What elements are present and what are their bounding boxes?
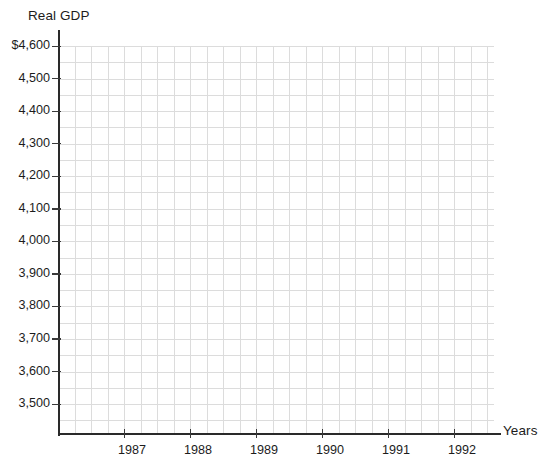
y-tick-mark <box>52 208 61 209</box>
plot-area <box>60 46 494 435</box>
y-tick-mark <box>52 404 61 405</box>
y-tick-label-wrap: $4,600 <box>0 38 50 52</box>
y-tick-label: 4,500 <box>0 71 50 85</box>
gridline-horizontal <box>60 225 494 226</box>
gridline-horizontal <box>60 339 494 340</box>
y-tick-label: 4,000 <box>0 233 50 247</box>
y-tick-label-wrap: 4,200 <box>0 168 50 182</box>
y-tick-mark <box>52 143 61 144</box>
gridline-horizontal <box>60 241 494 242</box>
y-tick-mark <box>52 46 61 47</box>
gridline-horizontal <box>60 127 494 128</box>
gridline-horizontal <box>60 79 494 80</box>
y-tick-label-wrap: 3,500 <box>0 396 50 410</box>
y-tick-label-wrap: 3,900 <box>0 266 50 280</box>
gridline-horizontal <box>60 388 494 389</box>
gridline-horizontal <box>60 176 494 177</box>
gridline-horizontal <box>60 192 494 193</box>
y-tick-label: 4,200 <box>0 168 50 182</box>
x-tick-mark <box>190 429 191 438</box>
y-tick-mark <box>52 371 61 372</box>
x-tick-label: 1992 <box>432 443 492 457</box>
y-tick-mark <box>52 241 61 242</box>
x-tick-label-wrap: 1991 <box>366 443 426 459</box>
gridline-horizontal <box>60 274 494 275</box>
gridline-horizontal <box>60 111 494 112</box>
y-tick-label-wrap: 4,100 <box>0 201 50 215</box>
y-axis-line <box>58 30 60 436</box>
x-axis-title: Years <box>503 423 538 438</box>
y-tick-mark <box>52 176 61 177</box>
y-tick-label: 4,100 <box>0 201 50 215</box>
gridline-horizontal <box>60 355 494 356</box>
gridline-horizontal <box>60 160 494 161</box>
y-tick-mark <box>52 78 61 79</box>
x-tick-label: 1988 <box>168 443 228 457</box>
gridline-horizontal <box>60 290 494 291</box>
x-tick-mark <box>256 429 257 438</box>
x-tick-mark <box>388 429 389 438</box>
gridline-horizontal <box>60 46 494 47</box>
y-tick-mark <box>52 306 61 307</box>
gridline-horizontal <box>60 323 494 324</box>
y-tick-label-wrap: 4,300 <box>0 136 50 150</box>
y-tick-label-wrap: 3,800 <box>0 298 50 312</box>
gridline-horizontal <box>60 62 494 63</box>
x-tick-mark <box>124 429 125 438</box>
y-tick-label: 3,800 <box>0 298 50 312</box>
y-tick-mark <box>52 111 61 112</box>
y-tick-label: 4,300 <box>0 136 50 150</box>
y-tick-label: 3,700 <box>0 331 50 345</box>
y-tick-label-wrap: 3,700 <box>0 331 50 345</box>
gridline-horizontal <box>60 372 494 373</box>
x-tick-label-wrap: 1988 <box>168 443 228 459</box>
gridline-horizontal <box>60 144 494 145</box>
x-tick-label-wrap: 1989 <box>234 443 294 459</box>
gridline-horizontal <box>60 95 494 96</box>
y-tick-label: 4,400 <box>0 103 50 117</box>
x-tick-label: 1990 <box>300 443 360 457</box>
y-tick-label: 3,900 <box>0 266 50 280</box>
y-tick-label-wrap: 4,500 <box>0 71 50 85</box>
y-tick-label: 3,600 <box>0 364 50 378</box>
x-tick-label-wrap: 1992 <box>432 443 492 459</box>
gridline-horizontal <box>60 306 494 307</box>
real-gdp-chart: Real GDP $4,6004,5004,4004,3004,2004,100… <box>0 0 547 471</box>
x-tick-label: 1987 <box>102 443 162 457</box>
y-tick-label-wrap: 4,000 <box>0 233 50 247</box>
y-tick-label: 3,500 <box>0 396 50 410</box>
y-tick-mark <box>52 273 61 274</box>
horizontal-gridlines <box>60 46 494 435</box>
gridline-horizontal <box>60 209 494 210</box>
gridline-horizontal <box>60 420 494 421</box>
y-tick-label: $4,600 <box>0 38 50 52</box>
x-tick-label-wrap: 1990 <box>300 443 360 459</box>
x-tick-mark <box>454 429 455 438</box>
y-tick-label-wrap: 4,400 <box>0 103 50 117</box>
y-tick-mark <box>52 338 61 339</box>
y-axis-title: Real GDP <box>28 8 90 23</box>
x-tick-label: 1991 <box>366 443 426 457</box>
y-tick-label-wrap: 3,600 <box>0 364 50 378</box>
x-tick-mark <box>322 429 323 438</box>
x-tick-label-wrap: 1987 <box>102 443 162 459</box>
gridline-horizontal <box>60 404 494 405</box>
x-tick-label: 1989 <box>234 443 294 457</box>
gridline-horizontal <box>60 258 494 259</box>
